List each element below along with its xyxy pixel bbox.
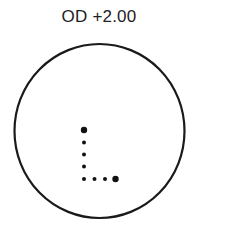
dot [103,177,107,181]
dot [82,153,86,157]
dot [82,177,86,181]
dot [112,176,118,182]
dot-pattern [81,127,119,182]
visual-field-diagram [0,0,235,230]
dot [82,165,86,169]
dot [93,177,97,181]
field-circle [15,44,185,218]
dot [81,127,87,133]
dot [82,141,86,145]
